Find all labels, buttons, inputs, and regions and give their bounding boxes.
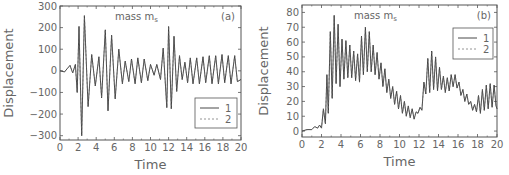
legend-label: 2 [225, 114, 231, 125]
y-tick-label: 0 [293, 126, 299, 137]
x-tick-label: 0 [57, 142, 63, 153]
x-axis-label: Time [134, 157, 167, 172]
x-tick-label: 8 [129, 142, 135, 153]
y-tick-label: −200 [30, 109, 57, 120]
y-tick-label: 70 [286, 22, 299, 33]
y-tick-label: 20 [286, 96, 299, 107]
x-axis-label: Time [383, 154, 416, 169]
x-tick-label: 12 [413, 139, 426, 150]
x-tick-label: 14 [432, 139, 445, 150]
y-tick-label: 0 [51, 65, 57, 76]
y-tick-label: 80 [286, 7, 299, 18]
x-tick-label: 20 [235, 142, 248, 153]
x-tick-label: 10 [144, 142, 157, 153]
x-tick-label: 2 [75, 142, 81, 153]
legend-label: 1 [483, 33, 489, 44]
chart-title: mass ms [354, 10, 397, 23]
x-tick-label: 16 [198, 142, 211, 153]
panel-label: (a) [221, 11, 235, 22]
chart-title-main: mass m [354, 10, 393, 21]
x-tick-label: 20 [491, 139, 504, 150]
x-tick-label: 6 [111, 142, 117, 153]
y-axis-label: Displacement [1, 28, 16, 117]
x-tick-label: 14 [180, 142, 193, 153]
y-tick-label: 10 [286, 111, 299, 122]
x-tick-label: 4 [338, 139, 344, 150]
chart-title-subscript: s [393, 15, 397, 23]
y-tick-label: 300 [38, 1, 57, 12]
x-tick-label: 10 [393, 139, 406, 150]
x-tick-label: 18 [471, 139, 484, 150]
x-tick-label: 6 [357, 139, 363, 150]
chart-panel-b: 0246810121416182001020304050607080TimeDi… [255, 0, 509, 175]
chart-title-main: mass m [115, 11, 154, 22]
x-tick-label: 4 [93, 142, 99, 153]
legend-label: 1 [225, 103, 231, 114]
y-tick-label: 60 [286, 37, 299, 48]
chart-a-svg: 02468101214161820−300−200−1000100200300T… [0, 0, 255, 175]
chart-b-svg: 0246810121416182001020304050607080TimeDi… [255, 0, 509, 175]
y-tick-label: 30 [286, 81, 299, 92]
chart-title: mass ms [115, 11, 158, 24]
x-tick-label: 16 [452, 139, 465, 150]
panel-label: (b) [477, 10, 491, 21]
y-tick-label: 40 [286, 66, 299, 77]
chart-title-subscript: s [154, 16, 158, 24]
y-axis-label: Displacement [256, 26, 271, 115]
y-tick-label: 200 [38, 22, 57, 33]
y-tick-label: 50 [286, 51, 299, 62]
y-tick-label: −100 [30, 87, 57, 98]
chart-panel-a: 02468101214161820−300−200−1000100200300T… [0, 0, 255, 175]
x-tick-label: 0 [299, 139, 305, 150]
y-tick-label: 100 [38, 44, 57, 55]
x-tick-label: 18 [217, 142, 230, 153]
y-tick-label: −300 [30, 130, 57, 141]
x-tick-label: 8 [377, 139, 383, 150]
legend-label: 2 [483, 44, 489, 55]
x-tick-label: 2 [318, 139, 324, 150]
x-tick-label: 12 [162, 142, 175, 153]
